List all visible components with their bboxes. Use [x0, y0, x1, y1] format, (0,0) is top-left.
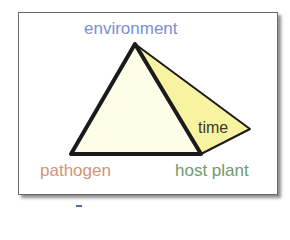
- pathogen-label: pathogen: [40, 162, 111, 179]
- host-plant-label: host plant: [175, 162, 249, 179]
- time-label: time: [198, 120, 228, 136]
- environment-label: environment: [84, 20, 178, 37]
- small-dash-mark: [76, 205, 82, 207]
